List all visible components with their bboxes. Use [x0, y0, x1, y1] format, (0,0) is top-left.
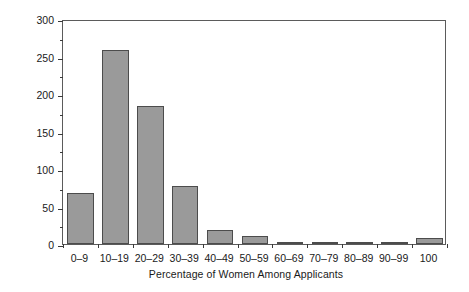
- bar: [137, 106, 164, 244]
- x-axis-tick: [307, 244, 308, 248]
- x-axis-tick: [133, 244, 134, 248]
- bar: [277, 242, 304, 244]
- x-axis-tick-label: 40–49: [204, 253, 233, 264]
- y-axis-tick-label: 300: [10, 15, 54, 26]
- x-axis-tick: [412, 244, 413, 248]
- x-axis-tick-label: 0–9: [71, 253, 89, 264]
- y-axis-tick-label: 50: [10, 202, 54, 213]
- y-axis-tick: [58, 209, 63, 210]
- y-axis-tick-label: 200: [10, 90, 54, 101]
- x-axis-tick: [447, 244, 448, 248]
- y-axis-tick: [58, 59, 63, 60]
- x-axis-tick: [272, 244, 273, 248]
- y-axis-minor-tick: [60, 115, 63, 116]
- bar: [346, 242, 373, 244]
- x-axis-tick-label: 20–29: [135, 253, 164, 264]
- x-axis-tick: [238, 244, 239, 248]
- y-axis-tick-label: 100: [10, 165, 54, 176]
- bar: [67, 193, 94, 244]
- y-axis-minor-tick: [60, 77, 63, 78]
- bar: [381, 242, 408, 244]
- y-axis-minor-tick: [60, 190, 63, 191]
- y-axis-minor-tick: [60, 40, 63, 41]
- bar: [172, 186, 199, 245]
- x-axis-tick-label: 10–19: [100, 253, 129, 264]
- x-axis-tick-label: 90–99: [379, 253, 408, 264]
- plot-area: [62, 20, 446, 245]
- y-axis-tick-label: 150: [10, 127, 54, 138]
- bar: [102, 50, 129, 244]
- x-axis-tick: [342, 244, 343, 248]
- x-axis-tick: [63, 244, 64, 248]
- x-axis-tick-label: 30–39: [170, 253, 199, 264]
- y-axis-tick-label: 0: [10, 240, 54, 251]
- y-axis-tick: [58, 96, 63, 97]
- x-axis-tick-label: 60–69: [274, 253, 303, 264]
- bar: [416, 238, 443, 244]
- x-axis-tick-label: 50–59: [239, 253, 268, 264]
- x-axis-tick: [377, 244, 378, 248]
- y-axis-tick-label: 250: [10, 52, 54, 63]
- y-axis-tick: [58, 171, 63, 172]
- bar-chart-figure: Number of Positions Percentage of Women …: [0, 0, 469, 292]
- bar: [207, 230, 234, 244]
- y-axis-minor-tick: [60, 152, 63, 153]
- y-axis-minor-tick: [60, 227, 63, 228]
- x-axis-tick: [98, 244, 99, 248]
- x-axis-tick: [168, 244, 169, 248]
- y-axis-tick: [58, 21, 63, 22]
- x-axis-tick-label: 100: [420, 253, 438, 264]
- x-axis-tick: [203, 244, 204, 248]
- x-axis-tick-label: 80–89: [344, 253, 373, 264]
- y-axis-tick: [58, 134, 63, 135]
- x-axis-title: Percentage of Women Among Applicants: [45, 268, 447, 280]
- bar: [312, 242, 339, 244]
- x-axis-tick-label: 70–79: [309, 253, 338, 264]
- bar: [242, 236, 269, 244]
